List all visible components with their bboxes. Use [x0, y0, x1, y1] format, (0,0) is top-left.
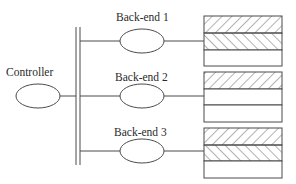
backend-3: [80, 128, 282, 178]
backend-2: [80, 72, 282, 122]
backend-3-label: Back-end 3: [114, 127, 167, 139]
backend-1-node: [120, 29, 164, 53]
controller-node: [16, 84, 60, 108]
backend-2-label: Back-end 2: [115, 72, 168, 84]
backend-1: [80, 16, 282, 66]
architecture-diagram: [0, 0, 296, 184]
bus: [76, 27, 80, 165]
backend-1-label: Back-end 1: [116, 12, 169, 24]
backend-3-storage: [204, 128, 282, 178]
controller-label: Controller: [6, 67, 53, 79]
backend-3-node: [120, 139, 164, 163]
backend-1-storage: [204, 16, 282, 66]
backend-2-node: [120, 84, 164, 108]
backend-2-storage: [204, 72, 282, 122]
